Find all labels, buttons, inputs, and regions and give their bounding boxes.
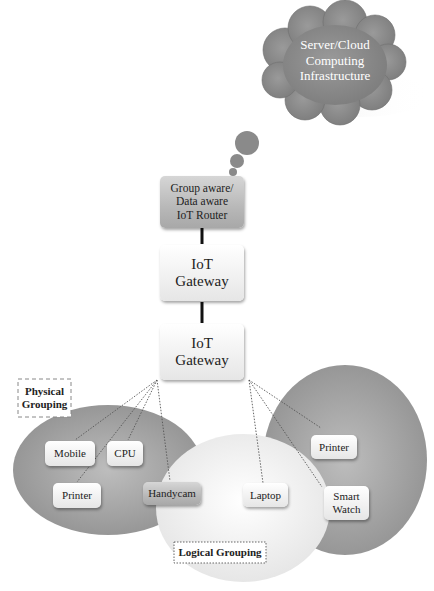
device-printer-right[interactable]: Printer [311,435,357,459]
thought-bubble-medium [230,154,244,168]
thought-bubble-small [229,168,237,176]
device-cpu[interactable]: CPU [107,441,143,466]
iot-gateway-upper[interactable]: IoT Gateway [160,245,244,301]
logical-grouping-label: Logical Grouping [175,543,265,562]
device-printer-left[interactable]: Printer [53,483,101,508]
device-smart-watch[interactable]: Smart Watch [324,486,369,520]
device-handycam[interactable]: Handycam [143,482,201,505]
thought-bubble-large [235,131,259,155]
cloud-label: Server/Cloud Computing Infrastructure [280,37,390,84]
iot-router-node[interactable]: Group aware/ Data aware IoT Router [160,176,244,228]
physical-grouping-label: Physical Grouping [19,380,70,416]
device-laptop[interactable]: Laptop [243,483,288,507]
iot-gateway-lower[interactable]: IoT Gateway [160,324,244,380]
device-mobile[interactable]: Mobile [45,441,95,466]
